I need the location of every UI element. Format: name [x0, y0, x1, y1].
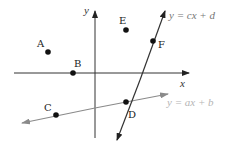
point-e: [123, 27, 129, 33]
point-a-label: A: [36, 38, 45, 49]
point-c-label: C: [44, 102, 52, 113]
point-d-label: D: [128, 109, 136, 120]
point-a: [45, 49, 51, 55]
point-b-label: B: [74, 58, 81, 69]
x-axis-label: x: [179, 77, 185, 89]
point-f: [150, 38, 156, 44]
point-b: [70, 70, 76, 76]
coordinate-diagram: y x A B C D E F y = cx + d y = ax + b: [0, 0, 230, 142]
equation-ax-plus-b: y = ax + b: [166, 96, 214, 108]
point-f-label: F: [158, 39, 165, 50]
point-c: [53, 112, 59, 118]
point-d: [123, 99, 129, 105]
equation-cx-plus-d: y = cx + d: [168, 9, 215, 21]
y-axis-label: y: [83, 4, 89, 16]
point-e-label: E: [119, 15, 126, 26]
